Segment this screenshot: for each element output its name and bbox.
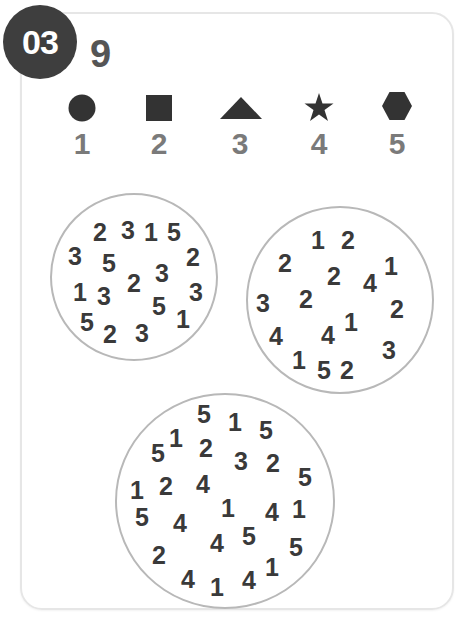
circle-1-number: 3	[97, 284, 111, 309]
hexagon-value-label: 5	[377, 127, 417, 161]
circle-2-number: 4	[363, 271, 377, 296]
circle-2-number: 1	[384, 254, 398, 279]
circle-1-number: 2	[186, 245, 200, 270]
circle-3-number: 1	[130, 478, 144, 503]
puzzle-number-badge: 03	[3, 5, 77, 79]
circle-1-number: 3	[121, 218, 135, 243]
circle-1-number: 5	[102, 251, 116, 276]
circle-1-number: 5	[167, 220, 181, 245]
answer-value: 9	[90, 33, 111, 76]
circle-1-number: 1	[73, 280, 87, 305]
circle-3-number: 5	[242, 524, 256, 549]
circle-3-number: 1	[210, 575, 224, 600]
circle-3-number: 1	[221, 496, 235, 521]
circle-3-number: 4	[265, 500, 279, 525]
circle-2-number: 2	[327, 264, 341, 289]
circle-3-number: 4	[242, 568, 256, 593]
circle-3-number: 4	[173, 511, 187, 536]
circle-3-number: 1	[169, 426, 183, 451]
square-shape-icon	[146, 95, 172, 121]
star-shape-icon	[304, 93, 334, 123]
circle-shape-icon	[68, 94, 96, 122]
circle-2-number: 5	[317, 358, 331, 383]
circle-1-number: 1	[144, 220, 158, 245]
circle-1-number: 1	[176, 307, 190, 332]
circle-3-number: 3	[234, 449, 248, 474]
circle-3-number: 5	[197, 402, 211, 427]
circle-2-number: 3	[382, 338, 396, 363]
circle-1-number: 3	[155, 261, 169, 286]
circle-3-number: 5	[289, 535, 303, 560]
triangle-shape-icon	[220, 97, 262, 119]
circle-1-number: 2	[103, 322, 117, 347]
circle-3-number: 1	[292, 497, 306, 522]
circle-3-number: 2	[152, 543, 166, 568]
square-value-label: 2	[139, 127, 179, 161]
circle-3-number: 5	[259, 418, 273, 443]
circle-2-number: 1	[311, 228, 325, 253]
circle-2-number: 2	[299, 287, 313, 312]
circle-1-number: 5	[152, 294, 166, 319]
circle-3-number: 2	[159, 474, 173, 499]
circle-2-number: 3	[256, 291, 270, 316]
circle-1-number: 3	[68, 244, 82, 269]
circle-3-number: 2	[266, 451, 280, 476]
circle-2-number: 4	[269, 324, 283, 349]
circle-2-number: 2	[278, 251, 292, 276]
circle-1-number: 5	[80, 310, 94, 335]
circle-2-number: 4	[321, 323, 335, 348]
circle-2-number: 1	[292, 348, 306, 373]
circle-1-number: 3	[135, 321, 149, 346]
circle-3-number: 4	[181, 567, 195, 592]
circle-2-number: 2	[340, 358, 354, 383]
circle-3-number: 1	[228, 410, 242, 435]
circle-1-number: 2	[93, 220, 107, 245]
hexagon-shape-icon	[382, 92, 412, 120]
circle-3-number: 1	[265, 555, 279, 580]
circle-3-number: 4	[196, 472, 210, 497]
circle-3-number: 5	[151, 441, 165, 466]
circle-value-label: 1	[62, 127, 102, 161]
circle-3-number: 2	[199, 436, 213, 461]
circle-2-number: 1	[344, 310, 358, 335]
circle-1-number: 2	[127, 271, 141, 296]
circle-3-number: 5	[135, 505, 149, 530]
circle-3-number: 5	[298, 465, 312, 490]
triangle-value-label: 3	[220, 127, 260, 161]
circle-3-number: 4	[210, 531, 224, 556]
star-value-label: 4	[299, 127, 339, 161]
circle-1-number: 3	[189, 280, 203, 305]
circle-2-number: 2	[341, 228, 355, 253]
circle-2-number: 2	[390, 297, 404, 322]
